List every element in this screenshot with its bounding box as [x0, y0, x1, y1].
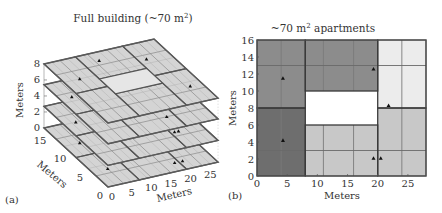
y-tick-label: 16 [241, 35, 254, 46]
x-tick-label: 15 [341, 178, 354, 189]
z-tick-label: 0 [34, 122, 40, 133]
x-tick-label: 5 [284, 178, 290, 189]
x-tick-label: 20 [371, 178, 384, 189]
y-tick-label: 0 [248, 171, 254, 182]
panel-a-title: Full building (~70 m2) [73, 12, 192, 24]
x-tick-label: 10 [311, 178, 324, 189]
y-tick-label: 6 [248, 120, 254, 131]
panel-b-title: ~70 m2 apartments [271, 22, 375, 34]
panel-a-zlabel: Meters [14, 82, 25, 118]
y-tick-label: 10 [241, 86, 254, 97]
panel-b-ylabel: Meters [227, 90, 238, 126]
y-tick-label: 10 [54, 153, 67, 164]
y-tick-label: 14 [241, 52, 254, 63]
apartment-upper-left [257, 40, 305, 108]
z-tick-label: 2 [34, 106, 40, 117]
x-tick-label: 5 [128, 187, 134, 198]
x-tick-label: 0 [254, 178, 260, 189]
z-tick-label: 8 [34, 58, 40, 69]
y-tick-label: 2 [248, 154, 254, 165]
apartment-lower-right [378, 108, 426, 176]
apartment-upper-middle [305, 40, 377, 91]
apartment-upper-right [378, 40, 426, 108]
x-tick-label: 25 [204, 169, 217, 180]
panel-b-xlabel: Meters [324, 190, 360, 201]
panel-a-floors [44, 39, 218, 187]
y-tick-label: 8 [248, 103, 254, 114]
z-tick-label: 6 [34, 74, 40, 85]
x-tick-label: 10 [145, 182, 158, 193]
panel-b-label: (b) [228, 190, 242, 201]
panel-a-xlabel: Meters [155, 185, 193, 204]
y-tick-label: 4 [248, 137, 254, 148]
panel-a-label: (a) [5, 194, 19, 205]
x-tick-label: 20 [184, 173, 197, 184]
y-tick-label: 15 [34, 135, 47, 146]
x-tick-label: 25 [402, 178, 415, 189]
y-tick-label: 12 [241, 69, 254, 80]
panel-b-floor-plan: ~70 m2 apartments 0510152025024681012141… [227, 22, 426, 201]
panel-b-plot-area [257, 40, 426, 176]
z-tick-label: 4 [34, 90, 40, 101]
y-tick-label: 5 [77, 172, 83, 183]
y-tick-label: 0 [97, 190, 103, 201]
figure: Full building (~70 m2) 02468051015202505… [0, 0, 442, 213]
apartment-lower-middle [305, 125, 377, 176]
x-tick-label: 0 [109, 191, 115, 202]
x-tick-label: 15 [165, 178, 178, 189]
apartment-lower-left [257, 108, 305, 176]
panel-a-3d-plot: Full building (~70 m2) 02468051015202505… [5, 12, 218, 205]
